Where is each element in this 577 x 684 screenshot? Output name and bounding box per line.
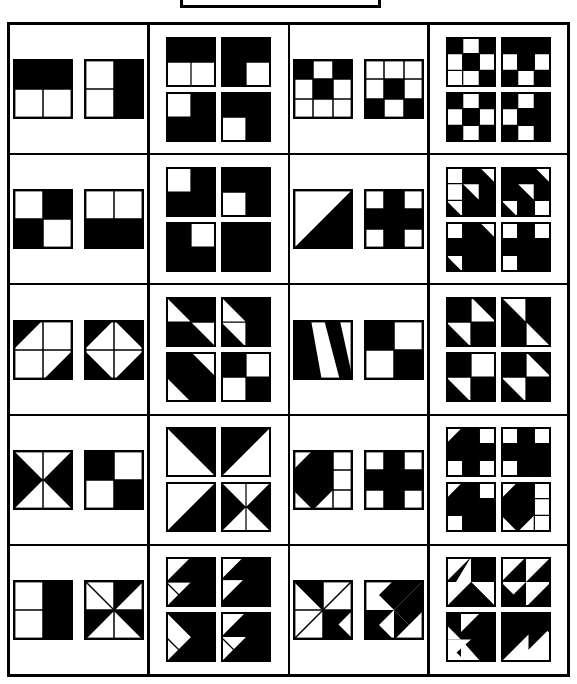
two-slanted-bars bbox=[293, 320, 353, 380]
matrix-row bbox=[10, 155, 567, 285]
tile-pair-group bbox=[293, 59, 424, 119]
bowtie-hourglass-2x2 bbox=[221, 482, 271, 532]
tile-pair-group bbox=[13, 320, 144, 380]
half-right-black-2x2 bbox=[84, 59, 144, 119]
matrix-row bbox=[10, 416, 567, 546]
triangles-diagonal-a-3x3 bbox=[446, 167, 496, 217]
triangle-pinwheel-a-2x2 bbox=[166, 297, 216, 347]
arrow-triangle-3x3 bbox=[501, 482, 551, 532]
matrix-cell-r3-c2[interactable] bbox=[149, 285, 289, 413]
diagonal-checker-2x2 bbox=[13, 189, 73, 249]
flag-triangle-d bbox=[221, 612, 271, 662]
matrix-cell-r2-c3[interactable] bbox=[290, 155, 429, 283]
diamond-4-triangles-2x2 bbox=[84, 320, 144, 380]
checker-b-3x3 bbox=[501, 37, 551, 87]
one-white-br-2x2 bbox=[221, 37, 271, 87]
top-partial-box bbox=[180, 0, 381, 8]
tile-quad-group bbox=[446, 37, 551, 142]
diagonal-half-a bbox=[166, 427, 216, 477]
checker-c-3x3 bbox=[446, 92, 496, 142]
matrix-cell-r4-c3[interactable] bbox=[290, 416, 429, 544]
checker-a-3x3 bbox=[446, 37, 496, 87]
matrix-cell-r5-c3[interactable] bbox=[290, 546, 429, 674]
half-bottom-black-2x2 bbox=[84, 189, 144, 249]
diagonal-half-c bbox=[166, 482, 216, 532]
triangles-diagonal-d-3x3 bbox=[501, 222, 551, 272]
tile-pair-group bbox=[13, 189, 144, 249]
triangle-pinwheel-b-2x2 bbox=[221, 297, 271, 347]
two-triangles-opposite-2x2 bbox=[13, 320, 73, 380]
tile-quad-group bbox=[166, 167, 271, 272]
tile-pair-group bbox=[13, 450, 144, 510]
cross-notched-a-3x3 bbox=[446, 427, 496, 477]
pinwheel-mixed-b bbox=[501, 557, 551, 607]
diagonal-half-b bbox=[221, 427, 271, 477]
matrix-cell-r5-c2[interactable] bbox=[149, 546, 289, 674]
matrix-cell-r5-c1[interactable] bbox=[10, 546, 149, 674]
matrix-cell-r3-c3[interactable] bbox=[290, 285, 429, 413]
notched-square-d-2x2 bbox=[501, 352, 551, 402]
diagonal-checker-alt-2x2 bbox=[221, 352, 271, 402]
matrix-cell-r2-c1[interactable] bbox=[10, 155, 149, 283]
triangles-diagonal-c-3x3 bbox=[446, 222, 496, 272]
cross-plus-3x3 bbox=[364, 189, 424, 249]
one-white-tl-2x2 bbox=[166, 92, 216, 142]
matrix-cell-r1-c1[interactable] bbox=[10, 25, 149, 153]
cross-notched-b-3x3 bbox=[501, 427, 551, 477]
matrix-cell-r1-c3[interactable] bbox=[290, 25, 429, 153]
one-white-tr-2x2 bbox=[166, 222, 216, 272]
tile-pair-group bbox=[13, 580, 144, 640]
flag-triangle-b bbox=[221, 557, 271, 607]
pattern-matrix bbox=[7, 22, 570, 677]
one-white-tl-2x2 bbox=[166, 167, 216, 217]
cross-notched-c-3x3 bbox=[446, 482, 496, 532]
matrix-cell-r2-c2[interactable] bbox=[149, 155, 289, 283]
matrix-row bbox=[10, 285, 567, 415]
matrix-cell-r3-c1[interactable] bbox=[10, 285, 149, 413]
checker-bottom-3x3 bbox=[364, 59, 424, 119]
triangle-lower-right-black bbox=[293, 189, 353, 249]
diagonal-checker-2x2-alt bbox=[364, 320, 424, 380]
notched-square-a-2x2 bbox=[446, 297, 496, 347]
pinwheel-4-triangles bbox=[364, 580, 424, 640]
tile-quad-group bbox=[446, 427, 551, 532]
diagonal-checker-2x2 bbox=[84, 450, 144, 510]
tile-pair-group bbox=[293, 320, 424, 380]
all-black-2x2 bbox=[221, 222, 271, 272]
pinwheel-mixed-c bbox=[446, 612, 496, 662]
matrix-row bbox=[10, 546, 567, 674]
arrow-triangle-3x3 bbox=[293, 450, 353, 510]
tile-pair-group bbox=[293, 580, 424, 640]
matrix-cell-r1-c2[interactable] bbox=[149, 25, 289, 153]
bowtie-hourglass-2x2 bbox=[13, 450, 73, 510]
matrix-cell-r3-c4[interactable] bbox=[429, 285, 567, 413]
half-right-black-2x2 bbox=[13, 580, 73, 640]
one-white-bl-2x2 bbox=[221, 92, 271, 142]
checker-d-3x3 bbox=[501, 92, 551, 142]
flag-triangle-a bbox=[166, 557, 216, 607]
matrix-cell-r4-c1[interactable] bbox=[10, 416, 149, 544]
matrix-cell-r4-c4[interactable] bbox=[429, 416, 567, 544]
checker-top-3x3 bbox=[293, 59, 353, 119]
pattern-matrix-page bbox=[0, 0, 577, 684]
tile-quad-group bbox=[166, 427, 271, 532]
tile-quad-group bbox=[446, 167, 551, 272]
notched-square-b-2x2 bbox=[501, 297, 551, 347]
pinwheel-8-triangles-alt bbox=[293, 580, 353, 640]
tile-quad-group bbox=[166, 297, 271, 402]
tile-quad-group bbox=[446, 557, 551, 662]
matrix-cell-r4-c2[interactable] bbox=[149, 416, 289, 544]
tile-quad-group bbox=[166, 37, 271, 142]
matrix-cell-r5-c4[interactable] bbox=[429, 546, 567, 674]
pinwheel-8-triangles bbox=[84, 580, 144, 640]
notched-square-c-2x2 bbox=[446, 352, 496, 402]
tile-quad-group bbox=[166, 557, 271, 662]
matrix-cell-r1-c4[interactable] bbox=[429, 25, 567, 153]
half-top-black-2x2 bbox=[13, 59, 73, 119]
cross-plus-3x3 bbox=[364, 450, 424, 510]
matrix-cell-r2-c4[interactable] bbox=[429, 155, 567, 283]
pinwheel-mixed-d bbox=[501, 612, 551, 662]
tile-quad-group bbox=[446, 297, 551, 402]
tile-pair-group bbox=[13, 59, 144, 119]
pinwheel-mixed-a bbox=[446, 557, 496, 607]
